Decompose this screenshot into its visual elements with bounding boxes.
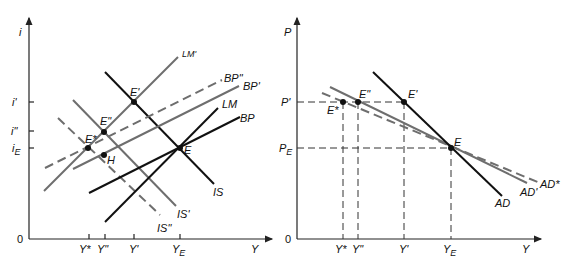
point-e-dprime <box>101 129 107 135</box>
diagram-canvas: i Y 0 i' i" iE Y* Y" Y' YE IS IS' IS" LM… <box>0 0 570 266</box>
point-e-star <box>85 145 91 151</box>
label-lm-prime: LM' <box>182 49 197 59</box>
label-ad-star: AD* <box>539 178 560 190</box>
label-y-dprime: Y" <box>97 243 109 255</box>
label-point-e-star-right: E* <box>327 104 339 116</box>
ad-curve <box>373 72 502 196</box>
label-ad: AD <box>494 197 510 209</box>
point-e <box>177 145 183 151</box>
label-p-e: PE <box>279 142 293 157</box>
right-x-axis-label: Y <box>522 243 530 255</box>
left-panel-is-lm-bp: i Y 0 i' i" iE Y* Y" Y' YE IS IS' IS" LM… <box>11 18 272 258</box>
label-y-e: YE <box>172 243 186 258</box>
point-e-star-right <box>340 99 346 105</box>
label-p-prime: P' <box>281 96 291 108</box>
label-point-e-dprime-right: E" <box>359 88 371 100</box>
label-y-dprime-right: Y" <box>352 243 364 255</box>
label-y-prime: Y' <box>129 243 139 255</box>
bp-prime-curve <box>73 86 239 169</box>
label-lm: LM <box>222 98 238 110</box>
point-e-prime <box>131 99 137 105</box>
label-bp-prime: BP' <box>243 80 261 92</box>
label-i-e: iE <box>12 142 21 157</box>
label-i-dprime: i" <box>11 125 18 137</box>
point-e-prime-right <box>401 99 407 105</box>
label-point-e-dprime: E" <box>100 115 112 127</box>
right-origin-label: 0 <box>285 233 291 245</box>
right-y-axis-label: P <box>284 26 292 38</box>
label-point-h: H <box>107 154 115 166</box>
label-y-prime-right: Y' <box>399 243 409 255</box>
label-y-star-right: Y* <box>335 243 347 255</box>
label-ad-prime: AD' <box>519 186 538 198</box>
left-origin-label: 0 <box>17 233 23 245</box>
left-x-axis-label: Y <box>251 243 259 255</box>
ad-star-curve <box>322 93 540 183</box>
label-is: IS <box>213 186 224 198</box>
label-point-e-right: E <box>454 136 462 148</box>
label-y-e-right: YE <box>443 243 457 258</box>
label-point-e-star: E* <box>85 133 97 145</box>
label-y-star: Y* <box>79 243 91 255</box>
label-is-prime: IS' <box>177 208 190 220</box>
label-point-e: E <box>184 144 192 156</box>
label-point-e-prime-right: E' <box>408 88 418 100</box>
label-bp: BP <box>240 112 255 124</box>
right-panel-ad: P Y 0 P' PE Y* Y" Y' YE AD AD' AD* E' E"… <box>279 18 560 258</box>
label-bp-dprime: BP" <box>224 72 244 84</box>
is-prime-curve <box>73 100 176 206</box>
label-is-dprime: IS" <box>157 222 172 234</box>
label-i-prime: i' <box>12 96 17 108</box>
label-point-e-prime: E' <box>130 86 140 98</box>
left-y-axis-label: i <box>19 26 22 38</box>
